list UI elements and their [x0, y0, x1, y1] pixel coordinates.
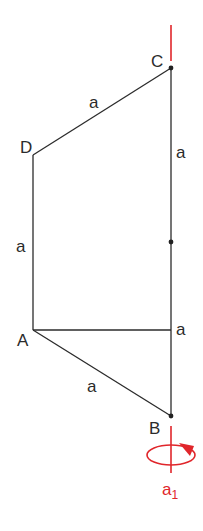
edge-label-AB: a	[87, 377, 97, 396]
edge-AB	[33, 330, 171, 416]
edge-label-A-horizontal: a	[176, 320, 186, 339]
label-B: B	[149, 419, 160, 438]
label-A: A	[17, 331, 29, 350]
edge-CD	[33, 68, 171, 155]
edge-label-CD: a	[89, 93, 99, 112]
label-C: C	[151, 52, 163, 71]
edge-label-C-upper: a	[176, 143, 186, 162]
trapezoid-diagram: C D A B a a a a a a1	[0, 0, 203, 531]
point-C	[169, 66, 174, 71]
point-B	[169, 414, 174, 419]
axis-label: a1	[162, 480, 178, 502]
label-D: D	[20, 138, 32, 157]
rotation-arrowhead-icon	[179, 443, 194, 456]
edge-label-DA: a	[16, 237, 26, 256]
axis-label-subscript: 1	[171, 488, 178, 502]
point-M	[169, 240, 174, 245]
